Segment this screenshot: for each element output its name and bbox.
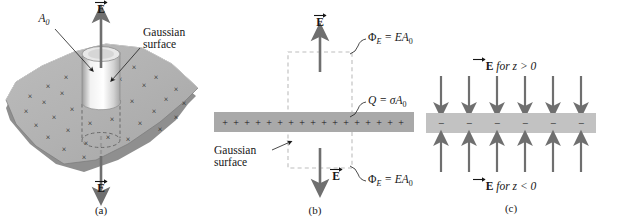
svg-text:+: + <box>299 117 305 128</box>
svg-text:+: + <box>277 117 283 128</box>
svg-text:+: + <box>266 117 272 128</box>
field-label-top-text: E <box>97 3 105 15</box>
svg-text:−: − <box>522 117 528 129</box>
field-arrows-top <box>441 76 581 110</box>
flux-bottom-label: ΦE = EA0 <box>368 173 413 188</box>
panel-c-graphic: − − − − − − E for z > 0 <box>420 0 618 220</box>
field-label-bottom-text: E <box>332 170 340 182</box>
gaussian-label-line2: surface <box>143 38 176 50</box>
svg-text:−: − <box>466 117 472 129</box>
field-label-bottom-text: E <box>97 182 105 194</box>
svg-text:×: × <box>88 119 93 128</box>
svg-text:+: + <box>343 117 349 128</box>
svg-text:×: × <box>138 119 143 128</box>
charge-label: Q = σA0 <box>368 94 407 109</box>
svg-text:×: × <box>152 107 157 116</box>
label-top-text: E for z > 0 <box>486 60 537 73</box>
svg-text:−: − <box>578 117 584 129</box>
svg-text:+: + <box>387 117 393 128</box>
svg-text:+: + <box>233 117 239 128</box>
label-bottom: E for z < 0 <box>473 177 537 193</box>
positive-charges-group: +++ +++ +++ +++ +++ ++ <box>222 117 404 128</box>
field-label-top: E <box>314 13 327 28</box>
svg-text:+: + <box>365 117 371 128</box>
svg-text:×: × <box>34 121 39 130</box>
svg-text:+: + <box>354 117 360 128</box>
svg-text:×: × <box>46 133 51 142</box>
panel-b-graphic: +++ +++ +++ +++ +++ ++ E E <box>210 0 420 220</box>
panel-c: − − − − − − E for z > 0 <box>420 0 618 220</box>
panel-c-tag: (c) <box>505 202 518 215</box>
svg-text:×: × <box>110 115 115 124</box>
svg-text:×: × <box>158 125 163 134</box>
panel-a-tag: (a) <box>95 204 108 217</box>
svg-text:+: + <box>310 117 316 128</box>
flux-top-label: ΦE = EA0 <box>368 31 413 46</box>
leader-flux-bottom <box>350 166 366 181</box>
svg-text:+: + <box>288 117 294 128</box>
svg-text:−: − <box>494 117 500 129</box>
svg-text:×: × <box>60 89 65 98</box>
svg-text:×: × <box>142 81 147 90</box>
svg-text:+: + <box>332 117 338 128</box>
svg-text:×: × <box>154 73 159 82</box>
svg-text:×: × <box>66 126 71 135</box>
svg-text:+: + <box>222 117 228 128</box>
svg-text:×: × <box>132 63 137 72</box>
svg-text:−: − <box>550 117 556 129</box>
panel-a: × × × × × × × × × × × × × × × × × × × × <box>0 0 210 220</box>
svg-text:+: + <box>398 117 404 128</box>
svg-text:×: × <box>52 113 57 122</box>
svg-text:×: × <box>64 73 69 82</box>
field-label-bottom: E <box>95 179 108 194</box>
label-top: E for z > 0 <box>473 57 537 73</box>
svg-text:×: × <box>164 95 169 104</box>
svg-text:×: × <box>24 107 29 116</box>
svg-text:+: + <box>244 117 250 128</box>
svg-text:×: × <box>82 153 87 162</box>
label-bottom-text: E for z < 0 <box>486 180 537 193</box>
svg-text:×: × <box>174 85 179 94</box>
panel-b-tag: (b) <box>309 204 322 217</box>
svg-text:+: + <box>376 117 382 128</box>
svg-text:×: × <box>70 105 75 114</box>
leader-gaussian <box>272 142 290 150</box>
svg-text:+: + <box>255 117 261 128</box>
field-arrows-bottom <box>441 138 581 172</box>
svg-text:×: × <box>28 92 33 101</box>
panel-b: +++ +++ +++ +++ +++ ++ E E <box>210 0 420 220</box>
charged-sheet <box>426 113 596 133</box>
field-label-bottom: E <box>330 167 343 182</box>
svg-text:×: × <box>174 113 179 122</box>
panel-a-graphic: × × × × × × × × × × × × × × × × × × × × <box>0 0 210 220</box>
svg-text:−: − <box>438 117 444 129</box>
svg-text:+: + <box>321 117 327 128</box>
gaussian-label-line1: Gaussian <box>143 26 185 38</box>
gaussian-label-line2: surface <box>214 156 247 168</box>
svg-text:×: × <box>42 98 47 107</box>
field-label-top-text: E <box>316 16 324 28</box>
svg-text:×: × <box>46 82 51 91</box>
svg-text:×: × <box>130 97 135 106</box>
leader-flux-top <box>350 39 366 54</box>
svg-text:×: × <box>182 99 187 108</box>
area-label: A0 <box>37 12 49 27</box>
physics-figure: × × × × × × × × × × × × × × × × × × × × <box>0 0 618 220</box>
svg-text:×: × <box>106 133 111 142</box>
svg-text:×: × <box>126 135 131 144</box>
field-label-top: E <box>95 0 108 15</box>
svg-text:×: × <box>62 145 67 154</box>
gaussian-label-line1: Gaussian <box>214 144 256 156</box>
